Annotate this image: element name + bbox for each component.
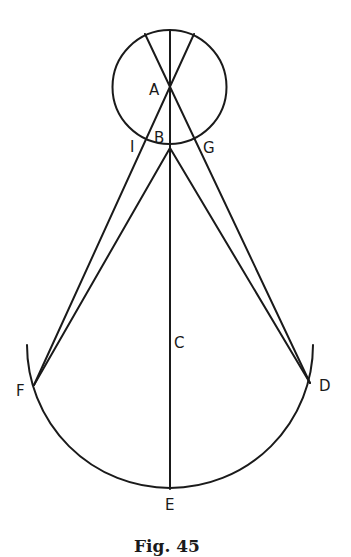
line-B-to-D	[170, 148, 310, 383]
label-E: E	[165, 496, 174, 514]
label-D: D	[319, 377, 331, 395]
label-B: B	[154, 129, 164, 147]
figure-caption: Fig. 45	[134, 536, 200, 556]
label-G: G	[203, 139, 215, 157]
line-B-to-F	[34, 148, 170, 385]
label-C: C	[174, 334, 184, 352]
label-A: A	[149, 81, 160, 99]
label-F: F	[16, 382, 25, 400]
label-I: I	[130, 138, 134, 156]
figure-45-diagram: A B I G C F D E Fig. 45	[0, 0, 351, 557]
